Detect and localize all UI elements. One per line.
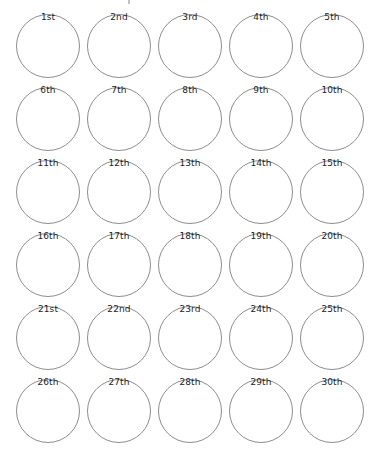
ordinal-label: 1st: [16, 11, 80, 23]
answer-circle[interactable]: [16, 87, 80, 151]
ordinal-label: 13th: [158, 157, 222, 169]
ordinal-label: 4th: [229, 11, 293, 23]
ordinal-label: 15th: [300, 157, 364, 169]
answer-circle[interactable]: [16, 233, 80, 297]
circle-cell[interactable]: 14th: [229, 160, 293, 224]
answer-circle[interactable]: [300, 160, 364, 224]
ordinal-label: 21st: [16, 303, 80, 315]
answer-circle[interactable]: [158, 306, 222, 370]
circle-cell[interactable]: 28th: [158, 379, 222, 443]
circle-cell[interactable]: 27th: [87, 379, 151, 443]
circle-cell[interactable]: 17th: [87, 233, 151, 297]
ordinal-label: 28th: [158, 376, 222, 388]
answer-circle[interactable]: [16, 379, 80, 443]
circle-cell[interactable]: 7th: [87, 87, 151, 151]
answer-circle[interactable]: [16, 306, 80, 370]
ordinal-label: 23rd: [158, 303, 222, 315]
answer-circle[interactable]: [300, 233, 364, 297]
circle-cell[interactable]: 2nd: [87, 14, 151, 78]
circle-cell[interactable]: 18th: [158, 233, 222, 297]
answer-circle[interactable]: [229, 14, 293, 78]
circle-cell[interactable]: 16th: [16, 233, 80, 297]
ordinal-label: 2nd: [87, 11, 151, 23]
answer-circle[interactable]: [300, 14, 364, 78]
ordinal-label: 17th: [87, 230, 151, 242]
circle-cell[interactable]: 4th: [229, 14, 293, 78]
circle-cell[interactable]: 22nd: [87, 306, 151, 370]
ordinal-label: 5th: [300, 11, 364, 23]
circle-cell[interactable]: 10th: [300, 87, 364, 151]
circle-cell[interactable]: 6th: [16, 87, 80, 151]
ordinal-label: 8th: [158, 84, 222, 96]
ordinal-label: 7th: [87, 84, 151, 96]
answer-circle[interactable]: [229, 87, 293, 151]
circle-cell[interactable]: 15th: [300, 160, 364, 224]
answer-circle[interactable]: [158, 379, 222, 443]
ordinal-label: 3rd: [158, 11, 222, 23]
answer-circle[interactable]: [300, 306, 364, 370]
ordinal-label: 25th: [300, 303, 364, 315]
answer-circle[interactable]: [158, 14, 222, 78]
answer-circle[interactable]: [87, 233, 151, 297]
circle-cell[interactable]: 13th: [158, 160, 222, 224]
ordinal-label: 14th: [229, 157, 293, 169]
ordinal-label: 12th: [87, 157, 151, 169]
circle-cell[interactable]: 30th: [300, 379, 364, 443]
ordinal-label: 30th: [300, 376, 364, 388]
ordinal-label: 10th: [300, 84, 364, 96]
answer-circle[interactable]: [229, 160, 293, 224]
answer-circle[interactable]: [229, 306, 293, 370]
circle-cell[interactable]: 29th: [229, 379, 293, 443]
circle-cell[interactable]: 19th: [229, 233, 293, 297]
circle-cell[interactable]: 3rd: [158, 14, 222, 78]
answer-circle[interactable]: [300, 379, 364, 443]
circle-cell[interactable]: 24th: [229, 306, 293, 370]
circle-cell[interactable]: 12th: [87, 160, 151, 224]
worksheet-page: 1st2nd3rd4th5th6th7th8th9th10th11th12th1…: [0, 0, 371, 463]
ordinal-label: 22nd: [87, 303, 151, 315]
ordinal-label: 18th: [158, 230, 222, 242]
answer-circle[interactable]: [229, 379, 293, 443]
answer-circle[interactable]: [300, 87, 364, 151]
ordinal-label: 27th: [87, 376, 151, 388]
circle-cell[interactable]: 23rd: [158, 306, 222, 370]
answer-circle[interactable]: [158, 233, 222, 297]
ordinal-label: 26th: [16, 376, 80, 388]
ordinal-label: 20th: [300, 230, 364, 242]
circle-cell[interactable]: 11th: [16, 160, 80, 224]
circle-cell[interactable]: 5th: [300, 14, 364, 78]
ordinal-label: 29th: [229, 376, 293, 388]
answer-circle[interactable]: [16, 14, 80, 78]
circle-cell[interactable]: 8th: [158, 87, 222, 151]
circle-cell[interactable]: 25th: [300, 306, 364, 370]
answer-circle[interactable]: [87, 87, 151, 151]
circle-cell[interactable]: 9th: [229, 87, 293, 151]
answer-circle[interactable]: [87, 160, 151, 224]
ordinal-label: 6th: [16, 84, 80, 96]
ordinal-label: 16th: [16, 230, 80, 242]
circle-cell[interactable]: 20th: [300, 233, 364, 297]
cropped-title-descender: [128, 0, 130, 4]
ordinal-label: 11th: [16, 157, 80, 169]
circle-cell[interactable]: 21st: [16, 306, 80, 370]
answer-circle[interactable]: [229, 233, 293, 297]
circle-cell[interactable]: 26th: [16, 379, 80, 443]
ordinal-label: 19th: [229, 230, 293, 242]
ordinal-label: 24th: [229, 303, 293, 315]
ordinal-label: 9th: [229, 84, 293, 96]
answer-circle[interactable]: [158, 160, 222, 224]
answer-circle[interactable]: [87, 379, 151, 443]
answer-circle[interactable]: [158, 87, 222, 151]
answer-circle[interactable]: [87, 14, 151, 78]
answer-circle[interactable]: [16, 160, 80, 224]
circle-grid: 1st2nd3rd4th5th6th7th8th9th10th11th12th1…: [16, 14, 371, 463]
circle-cell[interactable]: 1st: [16, 14, 80, 78]
answer-circle[interactable]: [87, 306, 151, 370]
